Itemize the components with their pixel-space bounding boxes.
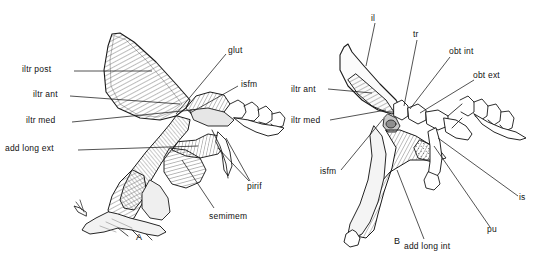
label-iltr-ant-b: iltr ant bbox=[291, 84, 316, 94]
figure-container: iltr post iltr ant iltr med add long ext… bbox=[0, 0, 533, 260]
label-iltr-med-a: iltr med bbox=[26, 115, 55, 125]
femoral-head-b bbox=[386, 120, 396, 128]
label-il: il bbox=[371, 13, 375, 23]
isfm-muscle-a bbox=[190, 108, 234, 126]
isfm-b bbox=[348, 126, 386, 238]
label-obt-int: obt int bbox=[449, 46, 474, 56]
leader-obt-int bbox=[410, 57, 450, 109]
label-add-long-ext: add long ext bbox=[5, 143, 54, 153]
label-is: is bbox=[519, 192, 526, 202]
label-iltr-ant-a: iltr ant bbox=[33, 89, 58, 99]
label-semimem: semimem bbox=[209, 211, 247, 221]
ischium-b bbox=[444, 118, 472, 140]
label-obt-ext: obt ext bbox=[473, 70, 500, 80]
panel-a-drawing bbox=[74, 33, 285, 240]
leader-pu bbox=[434, 146, 490, 227]
label-pu: pu bbox=[487, 224, 497, 234]
leader-is bbox=[438, 138, 518, 196]
leader-add-long-int bbox=[397, 170, 424, 239]
tibia-fibula-a bbox=[142, 180, 170, 220]
label-isfm-a: isfm bbox=[241, 79, 257, 89]
leader-pirif-1 bbox=[218, 148, 249, 181]
leader-tr bbox=[404, 40, 417, 106]
panel-label-a: A bbox=[136, 232, 142, 242]
trochanter-b bbox=[394, 100, 408, 120]
leader-il bbox=[366, 23, 375, 66]
anatomical-illustration-svg bbox=[0, 0, 533, 260]
label-iltr-med-b: iltr med bbox=[291, 115, 320, 125]
obt-int-b bbox=[408, 104, 426, 124]
ilium-outline-a bbox=[104, 33, 190, 120]
label-isfm-b: isfm bbox=[320, 166, 336, 176]
label-pirif: pirif bbox=[247, 181, 262, 191]
label-glut: glut bbox=[228, 45, 243, 55]
panel-label-b: B bbox=[394, 236, 400, 246]
leader-iltr-med-b bbox=[330, 110, 386, 120]
label-tr: tr bbox=[413, 29, 419, 39]
label-add-long-int: add long int bbox=[404, 241, 450, 251]
label-iltr-post: iltr post bbox=[22, 64, 51, 74]
